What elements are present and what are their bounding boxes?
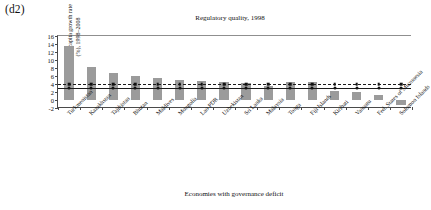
marker-dashed-average	[201, 83, 204, 86]
bar-turkmenistan	[64, 46, 73, 100]
marker-dashed-average	[223, 83, 226, 86]
marker-dashed-average	[112, 83, 115, 86]
y-axis-tick-label: 0	[24, 97, 58, 104]
marker-dashed-average	[178, 83, 181, 86]
y-axis-tick-mark	[55, 92, 58, 93]
x-axis-tick-mark	[412, 107, 413, 110]
marker-solid-average	[68, 87, 71, 90]
marker-solid-average	[134, 87, 137, 90]
y-axis-tick-label: 14	[24, 41, 58, 48]
x-axis-caption: Economies with governance deficit	[84, 190, 384, 198]
marker-dashed-average	[311, 83, 314, 86]
y-axis-tick-label: 2	[24, 89, 58, 96]
y-axis-tick-mark	[55, 76, 58, 77]
marker-solid-average	[377, 87, 380, 90]
marker-dashed-average	[134, 83, 137, 86]
y-axis-label-line2: (%), 1998–2008	[75, 0, 83, 97]
bar-vanuatu	[352, 92, 361, 100]
y-axis-tick-label: 6	[24, 73, 58, 80]
panel-label: (d2)	[5, 3, 25, 15]
marker-dashed-average	[333, 83, 336, 86]
marker-dashed-average	[289, 83, 292, 86]
marker-solid-average	[311, 87, 314, 90]
marker-solid-average	[222, 87, 225, 90]
y-axis-tick-label: 8	[24, 65, 58, 72]
marker-dashed-average	[245, 83, 248, 86]
y-axis-tick-label: 10	[24, 57, 58, 64]
marker-dashed-average	[355, 83, 358, 86]
marker-dashed-average	[68, 83, 71, 86]
marker-dashed-average	[90, 83, 93, 86]
marker-dashed-average	[267, 83, 270, 86]
marker-solid-average	[156, 87, 159, 90]
y-axis-tick-label: 4	[24, 81, 58, 88]
marker-solid-average	[355, 87, 358, 90]
y-axis-tick-mark	[55, 44, 58, 45]
y-axis-tick-mark	[55, 52, 58, 53]
y-axis-tick-label: 12	[24, 49, 58, 56]
marker-solid-average	[267, 87, 270, 90]
marker-solid-average	[200, 87, 203, 90]
marker-solid-average	[245, 87, 248, 90]
marker-solid-average	[289, 87, 292, 90]
marker-solid-average	[112, 87, 115, 90]
marker-solid-average	[333, 87, 336, 90]
y-axis-tick-mark	[55, 36, 58, 37]
reference-line-dashed-average	[58, 84, 411, 85]
marker-dashed-average	[156, 83, 159, 86]
marker-dashed-average	[378, 83, 381, 86]
y-axis-tick-label: -2	[24, 105, 58, 112]
y-axis-tick-mark	[55, 68, 58, 69]
marker-solid-average	[178, 87, 181, 90]
y-axis-tick-label: 16	[24, 33, 58, 40]
y-axis-tick-mark	[55, 60, 58, 61]
bar-fed-states-of-micronesia	[374, 95, 383, 100]
chart-title: Regulatory quality, 1998	[145, 14, 315, 22]
y-axis-tick-mark	[55, 100, 58, 101]
